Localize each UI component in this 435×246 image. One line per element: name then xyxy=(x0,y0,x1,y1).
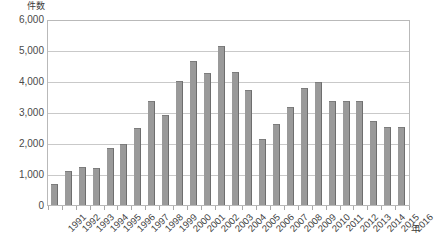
y-axis-unit-label: 件数 xyxy=(27,1,45,12)
bar[interactable] xyxy=(218,46,225,205)
bar-slot xyxy=(76,21,90,205)
bar[interactable] xyxy=(245,90,252,205)
bar-slot xyxy=(326,21,340,205)
bar[interactable] xyxy=(315,82,322,205)
bar[interactable] xyxy=(148,101,155,205)
y-axis-tick-label: 0 xyxy=(0,201,44,211)
bar-slot xyxy=(367,21,381,205)
bar[interactable] xyxy=(51,184,58,205)
x-axis-unit-label: 年 xyxy=(411,224,420,234)
bar[interactable] xyxy=(343,101,350,205)
bar-slot xyxy=(395,21,409,205)
bar-slot xyxy=(159,21,173,205)
y-axis-tick-label: 1,000 xyxy=(0,170,44,180)
bars-container xyxy=(48,21,409,205)
bar[interactable] xyxy=(176,81,183,205)
bar[interactable] xyxy=(65,171,72,205)
bar-slot xyxy=(353,21,367,205)
bar[interactable] xyxy=(329,101,336,205)
bar[interactable] xyxy=(162,115,169,205)
bar-slot xyxy=(298,21,312,205)
x-axis-tick xyxy=(409,206,410,210)
bar[interactable] xyxy=(259,139,266,205)
bar[interactable] xyxy=(232,72,239,205)
bar[interactable] xyxy=(204,73,211,205)
bar-slot xyxy=(242,21,256,205)
bar-slot xyxy=(187,21,201,205)
bar-slot xyxy=(104,21,118,205)
bar[interactable] xyxy=(120,144,127,205)
y-axis-tick-label: 5,000 xyxy=(0,46,44,56)
bar[interactable] xyxy=(134,128,141,205)
bar-slot xyxy=(117,21,131,205)
bar-slot xyxy=(270,21,284,205)
y-axis-tick-label: 4,000 xyxy=(0,77,44,87)
bar[interactable] xyxy=(384,127,391,205)
bar-slot xyxy=(90,21,104,205)
bar[interactable] xyxy=(93,168,100,205)
bar[interactable] xyxy=(301,88,308,205)
bar-slot xyxy=(284,21,298,205)
bar[interactable] xyxy=(370,121,377,205)
bar[interactable] xyxy=(398,127,405,205)
bar-slot xyxy=(201,21,215,205)
bar-slot xyxy=(62,21,76,205)
bar-slot xyxy=(229,21,243,205)
bar-slot xyxy=(256,21,270,205)
x-axis-tick-labels: 1991199219931994199519961997199819992000… xyxy=(48,210,409,246)
bar-slot xyxy=(173,21,187,205)
bar[interactable] xyxy=(356,101,363,205)
bar[interactable] xyxy=(287,107,294,205)
bar-slot xyxy=(215,21,229,205)
bar-slot xyxy=(48,21,62,205)
y-axis-tick-label: 6,000 xyxy=(0,15,44,25)
bar[interactable] xyxy=(107,148,114,205)
bar[interactable] xyxy=(190,61,197,205)
y-axis-tick-label: 2,000 xyxy=(0,139,44,149)
bar-slot xyxy=(340,21,354,205)
bar-slot xyxy=(312,21,326,205)
bar-slot xyxy=(131,21,145,205)
y-axis-tick-label: 3,000 xyxy=(0,108,44,118)
bar[interactable] xyxy=(79,167,86,205)
bar-slot xyxy=(381,21,395,205)
bar-slot xyxy=(145,21,159,205)
bar[interactable] xyxy=(273,124,280,205)
